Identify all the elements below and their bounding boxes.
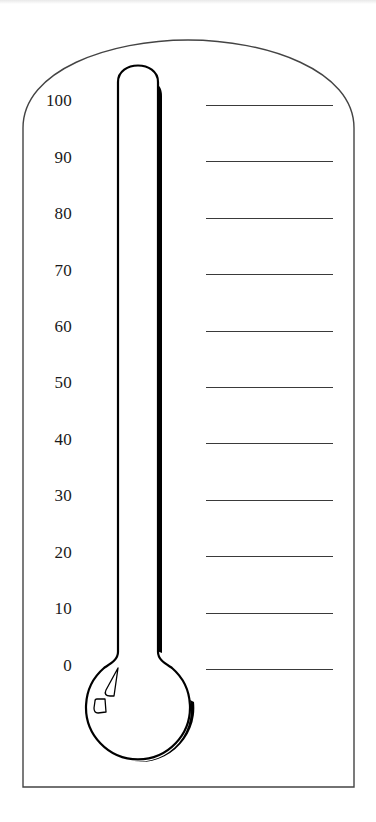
- scale-label-0: 0: [12, 656, 72, 676]
- scale-label-100: 100: [12, 91, 72, 111]
- write-in-line-90[interactable]: [206, 161, 333, 162]
- scale-label-20: 20: [12, 543, 72, 563]
- tube-shadow: [157, 84, 162, 653]
- scale-label-30: 30: [12, 486, 72, 506]
- write-in-line-20[interactable]: [206, 556, 333, 557]
- write-in-line-100[interactable]: [206, 105, 333, 106]
- thermometer-figure: [0, 0, 376, 822]
- write-in-line-60[interactable]: [206, 331, 333, 332]
- write-in-line-70[interactable]: [206, 274, 333, 275]
- write-in-line-0[interactable]: [206, 669, 333, 670]
- scale-label-50: 50: [12, 373, 72, 393]
- scale-label-60: 60: [12, 317, 72, 337]
- write-in-line-80[interactable]: [206, 218, 333, 219]
- bulb-highlight-small: [94, 699, 106, 713]
- scale-label-10: 10: [12, 599, 72, 619]
- write-in-line-50[interactable]: [206, 387, 333, 388]
- scale-label-40: 40: [12, 430, 72, 450]
- write-in-line-40[interactable]: [206, 443, 333, 444]
- scale-label-80: 80: [12, 204, 72, 224]
- scale-label-90: 90: [12, 148, 72, 168]
- outer-frame: [23, 40, 354, 787]
- thermometer-outline: [86, 66, 190, 760]
- write-in-line-10[interactable]: [206, 613, 333, 614]
- scale-label-70: 70: [12, 261, 72, 281]
- write-in-line-30[interactable]: [206, 500, 333, 501]
